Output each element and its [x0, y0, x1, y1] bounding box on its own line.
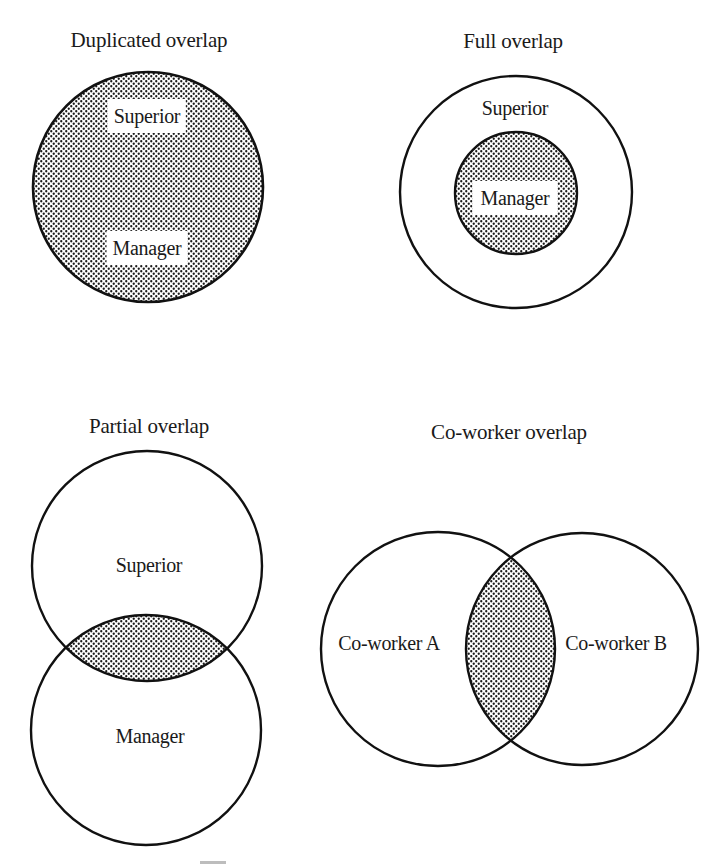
- panel-title-partial: Partial overlap: [89, 414, 209, 438]
- panel-title-duplicated: Duplicated overlap: [71, 28, 228, 52]
- label-manager: Manager: [107, 231, 188, 265]
- label-superior: Superior: [116, 553, 182, 577]
- label-coworker-b: Co-worker B: [565, 631, 667, 655]
- label-manager: Manager: [473, 181, 558, 215]
- label-manager: Manager: [116, 724, 185, 748]
- label-superior: Superior: [108, 99, 186, 133]
- label-coworker-a: Co-worker A: [338, 631, 440, 655]
- panel-title-coworker: Co-worker overlap: [431, 420, 587, 444]
- panel-partial-overlap: [31, 451, 262, 845]
- panel-title-full: Full overlap: [463, 29, 563, 53]
- label-superior: Superior: [482, 96, 548, 120]
